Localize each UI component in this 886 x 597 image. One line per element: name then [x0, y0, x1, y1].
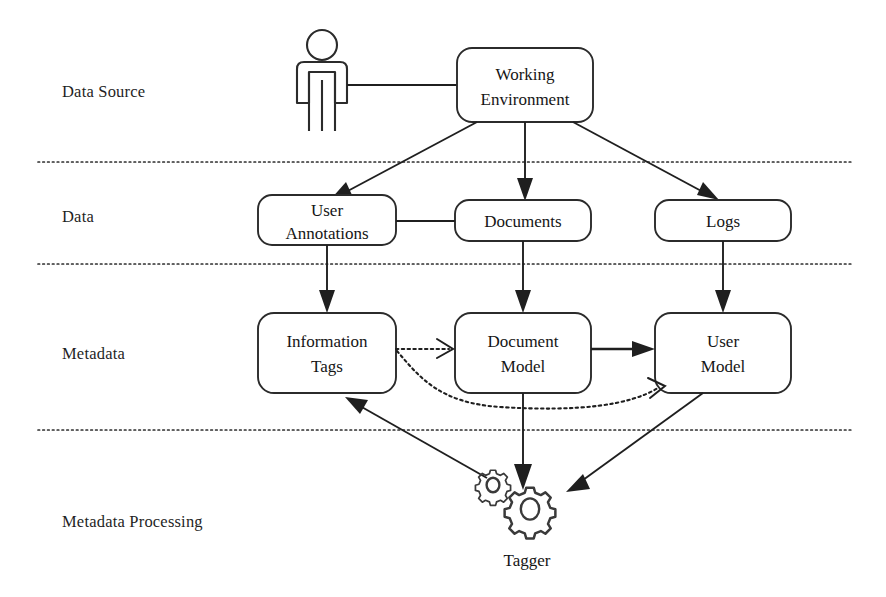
edge-document-model-to-user-model [591, 341, 655, 357]
node-information-tags-label-line1: Information [286, 332, 368, 351]
node-documents-label: Documents [484, 212, 561, 231]
node-logs-label: Logs [706, 212, 740, 231]
node-document-model-label-line2: Model [501, 357, 546, 376]
diagram-root: Data Source Data Metadata Metadata Proce… [0, 0, 886, 597]
node-document-model-box [455, 313, 591, 393]
node-user-annotations[interactable]: User Annotations [258, 195, 396, 245]
user-actor-icon [297, 30, 347, 131]
node-user-model-box [655, 313, 791, 393]
tagger-caption: Tagger [504, 551, 551, 570]
node-user-annotations-label-line1: User [311, 201, 343, 220]
node-documents[interactable]: Documents [455, 200, 591, 241]
node-information-tags-box [258, 313, 396, 393]
node-working-environment-label-line2: Environment [481, 90, 570, 109]
node-information-tags-label-line2: Tags [311, 357, 343, 376]
node-working-environment[interactable]: Working Environment [457, 48, 593, 122]
node-user-annotations-label-line2: Annotations [285, 224, 368, 243]
edge-documents-to-document-model [515, 241, 531, 313]
edge-working-environment-to-user-annotations [330, 122, 477, 200]
node-user-model[interactable]: User Model [655, 313, 791, 393]
node-working-environment-box [457, 48, 593, 122]
edge-working-environment-to-logs [573, 122, 719, 200]
layer-label-metadata: Metadata [62, 344, 125, 363]
edge-logs-to-user-model [715, 241, 731, 313]
edge-information-tags-to-document-model [396, 339, 453, 358]
edge-user-annotations-to-information-tags [319, 245, 335, 313]
layer-label-metadata-processing: Metadata Processing [62, 512, 203, 531]
architecture-diagram-canvas: Data Source Data Metadata Metadata Proce… [0, 0, 886, 597]
node-document-model[interactable]: Document Model [455, 313, 591, 393]
node-user-model-label-line1: User [707, 332, 739, 351]
node-working-environment-label-line1: Working [495, 65, 555, 84]
node-document-model-label-line1: Document [488, 332, 559, 351]
node-information-tags[interactable]: Information Tags [258, 313, 396, 393]
edge-tagger-to-information-tags [345, 397, 487, 478]
layer-label-data-source: Data Source [62, 82, 145, 101]
node-user-model-label-line2: Model [701, 357, 746, 376]
edge-user-model-to-tagger [566, 393, 703, 492]
node-logs[interactable]: Logs [655, 200, 791, 241]
layer-label-data: Data [62, 207, 94, 226]
gears-icon [475, 470, 555, 538]
